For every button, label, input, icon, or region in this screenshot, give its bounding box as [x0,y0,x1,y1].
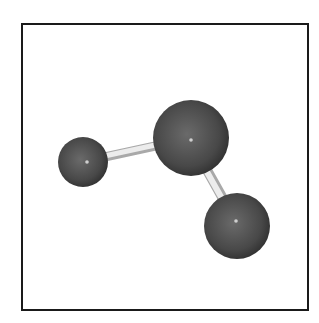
molecule-diagram [0,0,319,323]
atom-right [204,193,270,259]
atom-center [153,100,229,176]
bond-left-center [100,144,160,158]
atom-left [58,137,108,187]
